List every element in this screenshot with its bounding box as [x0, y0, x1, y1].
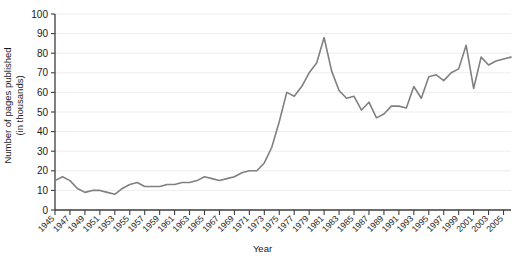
- y-axis-tick-label: 80: [37, 48, 49, 59]
- x-axis-tick-label: 2005: [484, 213, 505, 234]
- y-axis-ticks-group: 0102030405060708090100: [31, 9, 55, 216]
- y-axis-tick-label: 70: [37, 67, 49, 78]
- y-axis-title-line2: (in thousands): [13, 75, 24, 135]
- y-axis-tick-label: 90: [37, 28, 49, 39]
- y-axis-title-line1: Number of pages published: [2, 47, 13, 163]
- chart-figure: Number of pages published (in thousands)…: [0, 0, 525, 263]
- x-axis-title: Year: [0, 243, 525, 254]
- y-axis-tick-label: 100: [31, 9, 48, 20]
- x-axis-ticks-group: 1945194719491951195319551957195919611963…: [36, 210, 505, 234]
- line-chart-plot: 0102030405060708090100 19451947194919511…: [0, 0, 525, 263]
- y-axis-tick-label: 10: [37, 185, 49, 196]
- y-axis-tick-label: 60: [37, 87, 49, 98]
- gridlines-group: [55, 14, 511, 190]
- y-axis-tick-label: 30: [37, 146, 49, 157]
- y-axis-tick-label: 50: [37, 107, 49, 118]
- y-axis-tick-label: 40: [37, 126, 49, 137]
- y-axis-tick-label: 20: [37, 165, 49, 176]
- y-axis-title: Number of pages published (in thousands): [2, 0, 24, 210]
